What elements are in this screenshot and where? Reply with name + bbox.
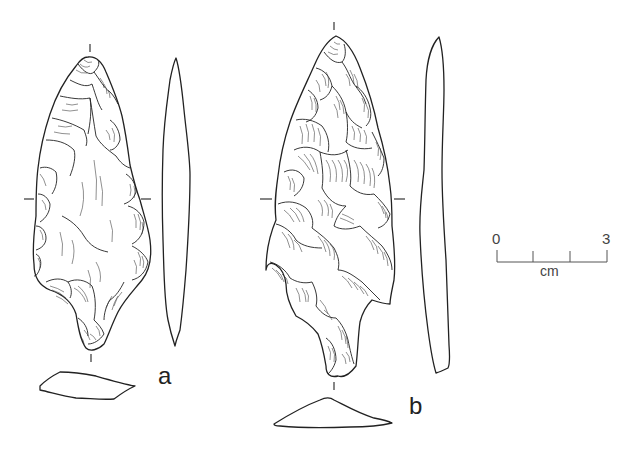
artifact-b-outline: [266, 36, 395, 377]
scale-end-label: 3: [602, 230, 610, 247]
scale-bar-line: [497, 250, 607, 262]
scale-start-label: 0: [492, 230, 500, 247]
scale-unit-label: cm: [540, 263, 559, 279]
artifact-b-face: [266, 36, 395, 377]
artifact-a-section: [40, 372, 135, 399]
artifact-a-label: a: [158, 362, 171, 390]
scale-bar: [497, 250, 607, 262]
artifact-b-section: [274, 398, 392, 428]
artifact-a-face: [33, 57, 151, 350]
figure-stage: a b 0 3 cm: [0, 0, 630, 451]
artifact-b-label: b: [409, 392, 422, 420]
artifact-a-profile: [162, 58, 190, 346]
artifact-drawing: [0, 0, 630, 451]
artifact-a-outline: [33, 57, 151, 350]
artifact-b-profile: [420, 37, 450, 373]
